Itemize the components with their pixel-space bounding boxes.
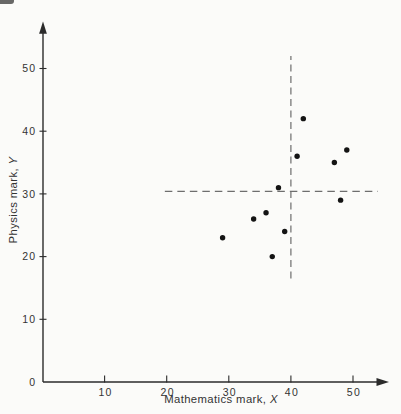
scan-artifact-mark	[0, 0, 14, 4]
data-point	[338, 197, 343, 202]
data-point	[282, 229, 287, 234]
scatter-figure: 1020304050 01020304050 Mathematics mark,…	[0, 0, 401, 414]
data-point	[263, 210, 268, 215]
data-point	[344, 147, 349, 152]
y-tick-label: 50	[22, 62, 36, 74]
x-axis-label: Mathematics mark, X	[164, 393, 278, 405]
y-tick-label: 20	[22, 250, 36, 262]
data-point	[270, 254, 275, 259]
axes	[39, 22, 389, 386]
data-point	[276, 185, 281, 190]
y-axis-variable: Y	[7, 155, 19, 164]
y-tick-label: 40	[22, 125, 36, 137]
y-tick-label: 0	[29, 376, 36, 388]
data-point	[301, 116, 306, 121]
x-axis-variable: X	[269, 393, 278, 405]
y-axis-label: Physics mark, Y	[7, 155, 19, 243]
y-tick-label: 30	[22, 188, 36, 200]
mean-lines	[165, 56, 378, 279]
y-tick-label: 10	[22, 313, 36, 325]
y-axis-label-text: Physics mark,	[7, 164, 19, 243]
data-point	[251, 216, 256, 221]
x-tick-label: 40	[285, 386, 299, 398]
data-point	[294, 154, 299, 159]
data-point	[332, 160, 337, 165]
data-points	[220, 116, 350, 259]
x-axis-label-text: Mathematics mark,	[164, 393, 270, 405]
scatter-chart: 1020304050 01020304050 Mathematics mark,…	[0, 0, 401, 414]
x-axis-arrow-icon	[377, 378, 390, 386]
y-axis-arrow-icon	[39, 22, 47, 34]
x-tick-label: 50	[347, 386, 361, 398]
x-tick-label: 10	[98, 386, 112, 398]
data-point	[220, 235, 225, 240]
